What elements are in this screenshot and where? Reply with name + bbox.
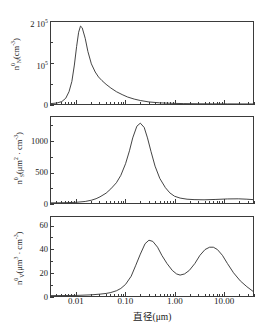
chart-panel-volume-distribution: n0V(μm3 · cm-3) 0204060 — [0, 212, 272, 304]
plot-area-panel-3 — [50, 216, 254, 297]
x-tick-mark-minor — [222, 201, 223, 204]
x-tick-mark-minor — [114, 102, 115, 105]
x-tick-mark-minor — [149, 201, 150, 204]
x-tick-mark-minor — [68, 102, 69, 105]
x-tick-mark-minor — [170, 201, 171, 204]
x-tick-mark-minor — [198, 102, 199, 105]
x-tick-label: 10.00 — [207, 296, 241, 306]
x-tick-mark-minor — [254, 102, 255, 105]
plot-area-panel-2 — [50, 116, 254, 204]
x-tick-mark-minor — [114, 201, 115, 204]
x-tick-mark-major — [175, 199, 176, 204]
x-tick-mark-minor — [167, 201, 168, 204]
x-tick-mark-minor — [71, 201, 72, 204]
curve-panel-3 — [51, 217, 253, 296]
x-tick-mark-minor — [65, 201, 66, 204]
x-tick-mark-minor — [56, 201, 57, 204]
x-tick-mark-minor — [219, 102, 220, 105]
chart-panel-surface-distribution: n0S(μm2 · cm-3) 05001000 — [0, 108, 272, 212]
x-axis-tick-labels: 0.010.101.0010.00 — [50, 296, 254, 308]
x-tick-mark-major — [175, 100, 176, 105]
x-tick-mark-minor — [61, 201, 62, 204]
y-tick-mark-minor — [50, 237, 53, 238]
x-tick-mark-minor — [222, 102, 223, 105]
y-tick-mark — [50, 249, 54, 250]
x-tick-mark-minor — [106, 102, 107, 105]
x-tick-mark-minor — [209, 102, 210, 105]
y-tick-label: 2 105 — [30, 17, 48, 28]
x-tick-mark-minor — [61, 102, 62, 105]
y-tick-label: 20 — [40, 269, 49, 278]
x-tick-mark-minor — [99, 201, 100, 204]
x-tick-mark-minor — [248, 201, 249, 204]
y-tick-labels-panel-1: 01052 105 — [0, 4, 48, 108]
y-tick-mark — [50, 173, 54, 174]
x-tick-mark-minor — [123, 201, 124, 204]
x-tick-mark-minor — [248, 102, 249, 105]
y-tick-mark-minor — [50, 188, 53, 189]
y-tick-mark-minor — [50, 42, 53, 43]
y-tick-mark-minor — [50, 157, 53, 158]
x-tick-mark-major — [224, 199, 225, 204]
x-tick-mark-minor — [118, 201, 119, 204]
x-tick-mark-minor — [217, 102, 218, 105]
x-tick-mark-minor — [213, 201, 214, 204]
y-tick-mark — [50, 226, 54, 227]
x-tick-label: 0.10 — [108, 296, 142, 306]
x-tick-mark-minor — [110, 201, 111, 204]
x-tick-mark-minor — [50, 102, 51, 105]
x-tick-mark-minor — [123, 102, 124, 105]
x-tick-mark-minor — [213, 102, 214, 105]
x-tick-mark-minor — [209, 201, 210, 204]
chart-panel-number-distribution: n0N(cm-3) 01052 105 — [0, 4, 272, 108]
y-tick-mark — [50, 21, 54, 22]
y-tick-label: 1000 — [31, 137, 48, 146]
curve-panel-2 — [51, 117, 253, 203]
x-tick-mark-minor — [121, 201, 122, 204]
x-tick-mark-minor — [118, 102, 119, 105]
x-tick-mark-minor — [56, 102, 57, 105]
y-tick-mark — [50, 204, 54, 205]
x-tick-label: 1.00 — [158, 296, 192, 306]
x-tick-mark-minor — [99, 102, 100, 105]
x-tick-mark-minor — [74, 201, 75, 204]
x-tick-label: 0.01 — [59, 296, 93, 306]
x-tick-mark-minor — [219, 201, 220, 204]
y-tick-mark — [50, 63, 54, 64]
x-tick-mark-minor — [71, 102, 72, 105]
y-tick-label: 40 — [40, 245, 49, 254]
x-axis-title: 直径(μm) — [50, 309, 254, 323]
y-tick-label: 105 — [37, 59, 48, 70]
x-tick-mark-minor — [170, 102, 171, 105]
y-tick-mark — [50, 105, 54, 106]
x-tick-mark-minor — [239, 102, 240, 105]
x-tick-mark-minor — [68, 201, 69, 204]
x-tick-mark-major — [76, 199, 77, 204]
x-tick-mark-minor — [121, 102, 122, 105]
curve-panel-1 — [51, 22, 253, 104]
x-tick-mark-minor — [173, 201, 174, 204]
x-tick-mark-major — [125, 100, 126, 105]
x-tick-mark-minor — [74, 102, 75, 105]
x-tick-mark-minor — [254, 201, 255, 204]
x-tick-mark-minor — [140, 201, 141, 204]
x-tick-mark-minor — [190, 102, 191, 105]
x-tick-mark-major — [224, 100, 225, 105]
x-tick-mark-minor — [190, 201, 191, 204]
figure-container: n0N(cm-3) 01052 105 n0S(μm2 · cm-3) 0500… — [0, 0, 272, 333]
x-tick-mark-minor — [65, 102, 66, 105]
x-tick-mark-minor — [160, 201, 161, 204]
x-tick-mark-minor — [239, 201, 240, 204]
y-tick-mark — [50, 141, 54, 142]
x-tick-mark-minor — [173, 102, 174, 105]
x-tick-mark-minor — [91, 102, 92, 105]
x-tick-mark-minor — [50, 201, 51, 204]
x-tick-mark-minor — [198, 201, 199, 204]
y-tick-label: 0 — [44, 200, 48, 209]
x-tick-mark-minor — [164, 102, 165, 105]
y-tick-label: 60 — [40, 221, 49, 230]
y-tick-mark-minor — [50, 125, 53, 126]
x-tick-mark-minor — [91, 201, 92, 204]
x-tick-mark-minor — [254, 294, 255, 297]
x-tick-mark-minor — [155, 201, 156, 204]
